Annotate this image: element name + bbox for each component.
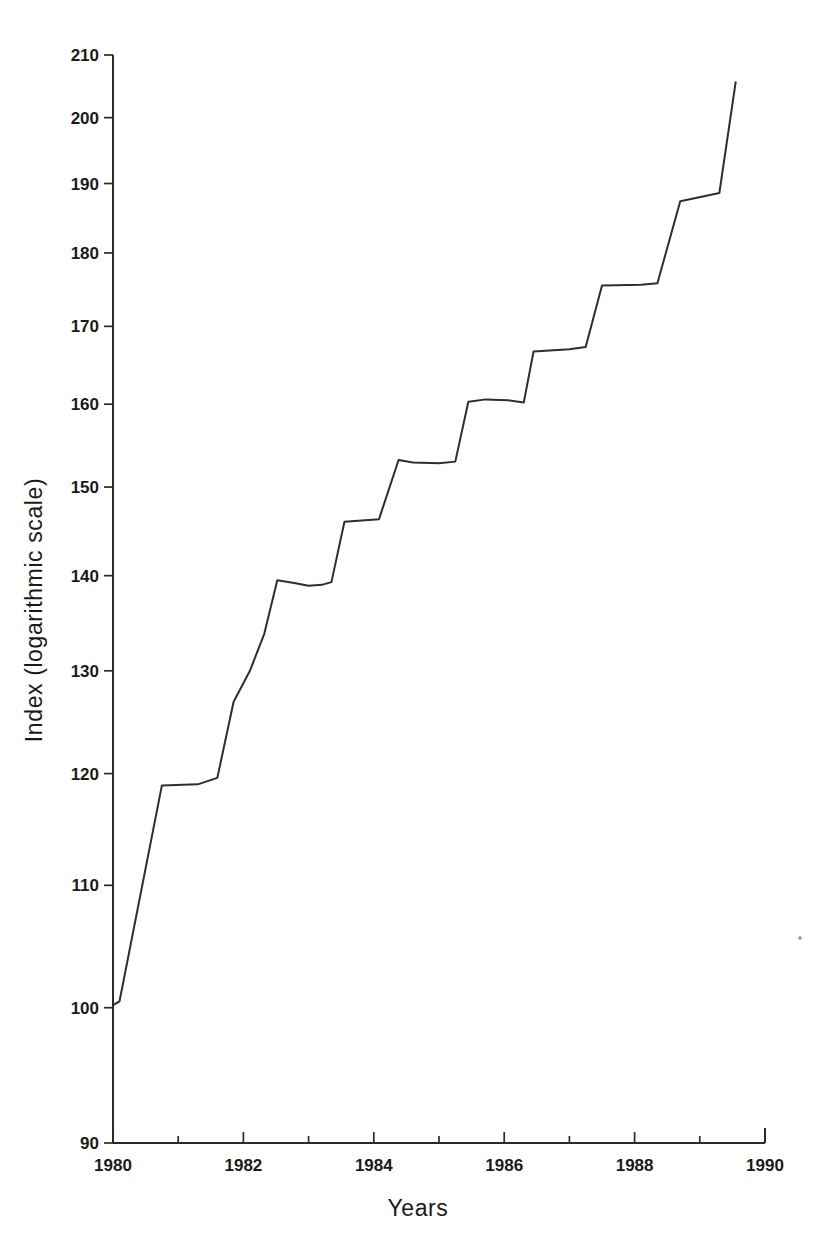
x-tick-label: 1988 [616, 1156, 654, 1175]
y-tick-label: 200 [71, 109, 99, 128]
y-tick-label: 150 [71, 478, 99, 497]
line-chart-svg: 21020019018017016015014013012011010090 1… [0, 0, 837, 1247]
y-tick-label: 100 [71, 999, 99, 1018]
x-tick-label: 1982 [224, 1156, 262, 1175]
chart-figure: 21020019018017016015014013012011010090 1… [0, 0, 837, 1247]
x-tick-label: 1990 [746, 1156, 784, 1175]
x-tick-label: 1980 [94, 1156, 132, 1175]
y-tick-label: 160 [71, 395, 99, 414]
y-tick-label: 120 [71, 765, 99, 784]
y-tick-label: 130 [71, 662, 99, 681]
y-tick-label: 140 [71, 567, 99, 586]
x-axis-title: Years [388, 1195, 449, 1221]
y-tick-label: 90 [80, 1134, 99, 1153]
y-tick-label: 180 [71, 244, 99, 263]
chart-background [0, 0, 837, 1247]
y-tick-label: 110 [72, 876, 99, 895]
y-tick-label: 170 [71, 317, 99, 336]
y-axis-title: Index (logarithmic scale) [21, 478, 47, 742]
x-tick-label: 1986 [485, 1156, 523, 1175]
x-tick-label: 1984 [355, 1156, 393, 1175]
y-tick-label: 210 [71, 46, 99, 65]
scan-artifact-speck [798, 936, 802, 940]
y-tick-label: 190 [71, 175, 99, 194]
